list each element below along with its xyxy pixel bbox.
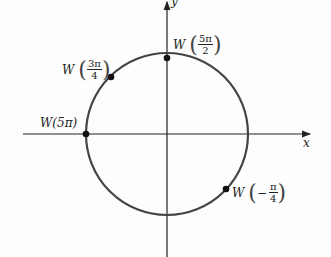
denominator: 4 bbox=[91, 70, 97, 81]
numerator: π bbox=[269, 181, 278, 193]
open-paren: ( bbox=[248, 182, 257, 204]
point-w-neg-pi-over-4 bbox=[223, 186, 230, 193]
argument: (5π) bbox=[52, 116, 77, 130]
unit-circle-diagram: x y W ( 5π 2 ) W ( 3π 4 ) W (5π) W ( − π… bbox=[0, 0, 331, 257]
label-w-5pi-over-2: W ( 5π 2 ) bbox=[173, 33, 221, 56]
close-paren: ) bbox=[278, 182, 287, 204]
open-paren: ( bbox=[189, 34, 198, 56]
minus-sign: − bbox=[257, 186, 267, 200]
open-paren: ( bbox=[78, 59, 87, 81]
function-w: W bbox=[232, 186, 244, 200]
close-paren: ) bbox=[213, 34, 222, 56]
fraction: π 4 bbox=[269, 181, 278, 204]
point-w-5pi bbox=[83, 131, 90, 138]
close-paren: ) bbox=[102, 59, 111, 81]
fraction: 3π 4 bbox=[87, 58, 102, 81]
label-w-3pi-over-4: W ( 3π 4 ) bbox=[62, 58, 110, 81]
denominator: 2 bbox=[202, 45, 208, 56]
function-w: W bbox=[173, 38, 185, 52]
point-w-5pi-over-2 bbox=[164, 55, 171, 62]
numerator: 5π bbox=[198, 33, 213, 45]
fraction: 5π 2 bbox=[198, 33, 213, 56]
function-w: W bbox=[62, 63, 74, 77]
function-w: W bbox=[40, 116, 52, 130]
numerator: 3π bbox=[87, 58, 102, 70]
y-axis-label: y bbox=[171, 0, 178, 8]
label-w-neg-pi-over-4: W ( − π 4 ) bbox=[232, 181, 286, 204]
label-w-5pi: W (5π) bbox=[40, 116, 77, 130]
x-axis-label: x bbox=[303, 136, 310, 150]
denominator: 4 bbox=[270, 193, 276, 204]
